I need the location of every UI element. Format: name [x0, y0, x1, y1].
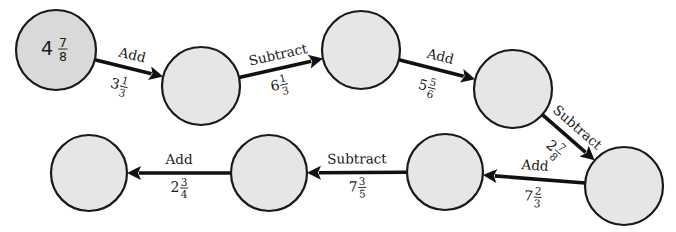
operation-label: Add [424, 45, 455, 68]
operation-label: Subtract [327, 150, 387, 166]
arrow-line [495, 176, 585, 183]
answer-node-6[interactable] [407, 134, 483, 210]
amount-label: 613 [268, 71, 290, 99]
fraction-numerator: 3 [181, 176, 188, 188]
edge-label-6: Subtract735 [327, 150, 387, 199]
number-chain-diagram: 478 Add313Subtract613Add556Subtract278Ad… [0, 0, 676, 232]
fraction-denominator: 6 [425, 87, 435, 100]
node-circle[interactable] [585, 147, 663, 225]
edge-arrow-7 [127, 166, 231, 180]
amount-label: 735 [349, 175, 367, 200]
mixed-number-whole: 4 [41, 37, 53, 59]
fraction-denominator: 3 [281, 84, 290, 97]
fraction-denominator: 5 [359, 187, 366, 199]
answer-node-2[interactable] [162, 47, 240, 125]
node-circle[interactable] [474, 50, 552, 128]
node-circle [16, 10, 96, 90]
fraction-numerator: 7 [59, 35, 67, 50]
arrow-line [319, 172, 407, 173]
fraction-numerator: 1 [121, 74, 130, 87]
fraction-numerator: 5 [429, 75, 438, 88]
amount-label: 723 [523, 184, 542, 210]
arrowhead-icon [307, 166, 321, 180]
fraction-denominator: 8 [59, 49, 67, 64]
fraction-numerator: 2 [534, 185, 542, 197]
operation-label: Add [520, 156, 550, 174]
answer-node-5[interactable] [585, 147, 663, 225]
amount-label: 234 [171, 176, 188, 201]
fraction-denominator: 4 [181, 188, 188, 200]
answer-node-8[interactable] [51, 135, 127, 211]
mixed-number-whole: 7 [524, 187, 534, 204]
operation-label: Add [164, 151, 192, 167]
amount-label: 313 [108, 71, 131, 99]
answer-node-3[interactable] [322, 11, 400, 89]
start-node: 478 [16, 10, 96, 90]
mixed-number-whole: 7 [349, 178, 358, 194]
fraction-denominator: 3 [118, 86, 127, 99]
answer-node-4[interactable] [474, 50, 552, 128]
mixed-number-whole: 2 [171, 179, 180, 195]
edge-label-7: Add234 [164, 151, 192, 200]
node-circle[interactable] [231, 135, 307, 211]
node-circle[interactable] [407, 134, 483, 210]
fraction-numerator: 1 [278, 72, 287, 85]
node-circle[interactable] [162, 47, 240, 125]
edge-label-4: Subtract278 [540, 101, 606, 163]
fraction-numerator: 3 [359, 175, 366, 187]
arrowhead-icon [127, 166, 141, 180]
node-circle[interactable] [322, 11, 400, 89]
answer-node-7[interactable] [231, 135, 307, 211]
node-circle[interactable] [51, 135, 127, 211]
operation-label: Add [116, 43, 147, 65]
edge-label-5: Add723 [520, 156, 550, 210]
amount-label: 556 [416, 73, 439, 101]
fraction-denominator: 3 [533, 197, 541, 209]
arrow-line [399, 60, 464, 77]
